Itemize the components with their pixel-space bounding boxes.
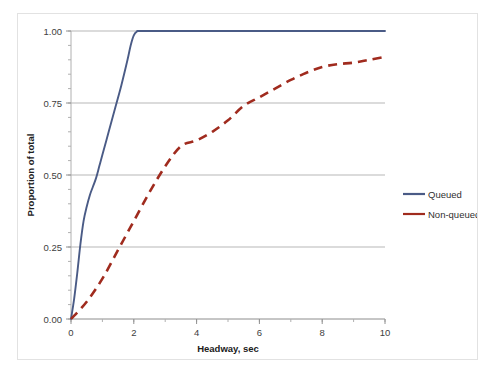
y-tick-label: 1.00	[44, 26, 63, 37]
x-tick-label: 10	[380, 327, 391, 338]
y-axis-title: Proportion of total	[25, 134, 36, 217]
x-axis-title: Headway, sec	[197, 343, 259, 354]
chart-plot-area: 0.000.250.500.751.000246810Headway, secP…	[18, 14, 477, 359]
legend-label-non-queued: Non-queued	[428, 209, 477, 220]
legend-label-queued: Queued	[428, 189, 462, 200]
y-tick-label: 0.75	[44, 98, 63, 109]
x-tick-label: 4	[194, 327, 199, 338]
chart-frame: 0.000.250.500.751.000246810Headway, secP…	[17, 13, 478, 360]
y-tick-label: 0.25	[44, 242, 63, 253]
x-tick-label: 2	[131, 327, 136, 338]
x-tick-label: 0	[68, 327, 73, 338]
y-tick-label: 0.50	[44, 170, 63, 181]
x-tick-label: 6	[257, 327, 262, 338]
y-tick-label: 0.00	[44, 314, 63, 325]
x-tick-label: 8	[320, 327, 325, 338]
